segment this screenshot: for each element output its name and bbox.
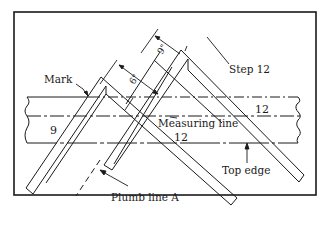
rafter-layout-diagram: Mark Step 12 Measuring line Top edge Plu…: [0, 0, 327, 238]
step-label: Step 12: [229, 63, 270, 75]
measuring-line-label: Measuring line: [158, 117, 238, 129]
plumb-line-a: [76, 160, 100, 196]
plumb-line-label: Plumb line A: [111, 191, 179, 203]
run-label-left: 9: [50, 124, 57, 137]
mark-label: Mark: [44, 73, 73, 85]
top-edge-label: Top edge: [222, 164, 270, 176]
run-label-upper-right: 12: [255, 103, 269, 116]
frame-border: [14, 12, 316, 195]
run-label-lower-middle: 12: [174, 131, 188, 144]
